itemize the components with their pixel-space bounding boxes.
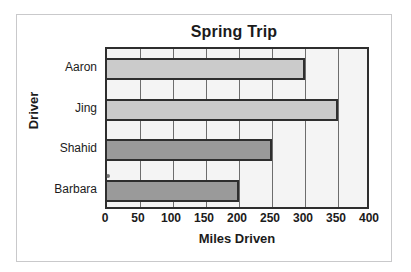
chart-title: Spring Trip bbox=[17, 23, 391, 41]
x-tick-label-400: 400 bbox=[359, 211, 379, 225]
x-tick-label-0: 0 bbox=[102, 211, 109, 225]
x-tick-label-350: 350 bbox=[326, 211, 346, 225]
x-axis-title: Miles Driven bbox=[105, 231, 369, 246]
y-tick-label-jing: Jing bbox=[75, 97, 97, 119]
bar-aaron bbox=[105, 58, 305, 80]
x-tick-label-100: 100 bbox=[161, 211, 181, 225]
bar-shahid bbox=[105, 139, 272, 161]
plot-area bbox=[105, 47, 369, 209]
x-axis-tick-labels: 050100150200250300350400 bbox=[105, 211, 369, 229]
chart-figure: Spring Trip Driver AaronJingShahidBarbar… bbox=[16, 14, 392, 262]
bar-barbara bbox=[105, 180, 239, 202]
x-tick-label-250: 250 bbox=[260, 211, 280, 225]
x-tick-label-50: 50 bbox=[131, 211, 144, 225]
x-tick-label-200: 200 bbox=[227, 211, 247, 225]
bar-series bbox=[107, 49, 367, 207]
x-tick-label-150: 150 bbox=[194, 211, 214, 225]
x-tick-label-300: 300 bbox=[293, 211, 313, 225]
y-tick-label-shahid: Shahid bbox=[60, 137, 97, 159]
y-tick-label-aaron: Aaron bbox=[65, 56, 97, 78]
y-tick-label-barbara: Barbara bbox=[54, 178, 97, 200]
y-axis-tick-labels: AaronJingShahidBarbara bbox=[35, 47, 101, 209]
scan-artifact-speck bbox=[106, 174, 110, 178]
bar-jing bbox=[105, 99, 338, 121]
